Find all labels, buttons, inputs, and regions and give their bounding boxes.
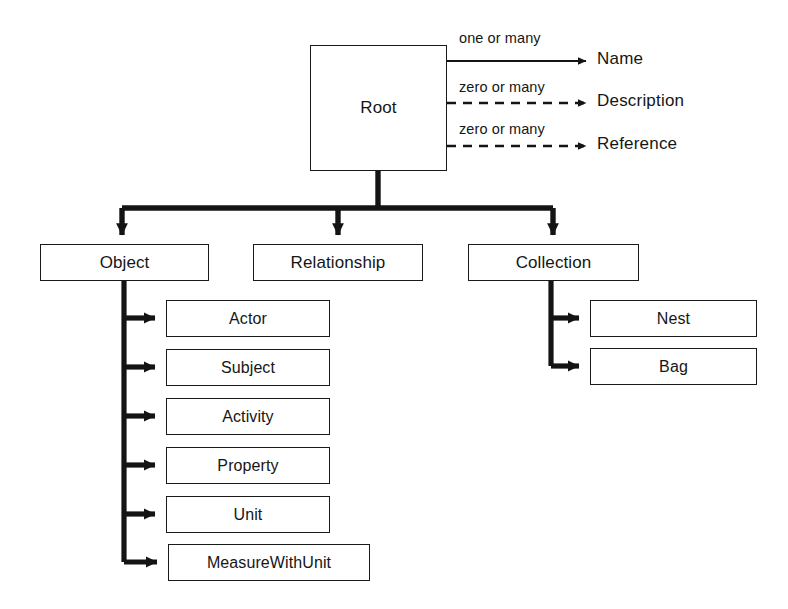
edge-object-children: [124, 280, 157, 562]
edge-label-reference-cardinality: zero or many: [459, 121, 545, 137]
node-collection-label: Collection: [516, 253, 592, 273]
edge-collection-children: [551, 280, 579, 366]
node-actor[interactable]: Actor: [166, 300, 330, 337]
node-property-label: Property: [217, 457, 278, 475]
node-actor-label: Actor: [229, 310, 267, 328]
node-root[interactable]: Root: [310, 45, 447, 171]
node-relationship[interactable]: Relationship: [253, 244, 423, 281]
node-object-label: Object: [100, 253, 150, 273]
node-property[interactable]: Property: [166, 447, 330, 484]
node-subject-label: Subject: [221, 359, 275, 377]
node-relationship-label: Relationship: [291, 253, 386, 273]
node-measurewithunit-label: MeasureWithUnit: [207, 554, 331, 572]
node-activity-label: Activity: [222, 408, 273, 426]
node-activity[interactable]: Activity: [166, 398, 330, 435]
node-subject[interactable]: Subject: [166, 349, 330, 386]
node-nest-label: Nest: [657, 310, 690, 328]
node-bag-label: Bag: [659, 358, 688, 376]
node-bag[interactable]: Bag: [590, 348, 757, 385]
node-measurewithunit[interactable]: MeasureWithUnit: [168, 544, 370, 581]
node-nest[interactable]: Nest: [590, 300, 757, 337]
attribute-description: Description: [597, 91, 684, 111]
attribute-name: Name: [597, 49, 643, 69]
edge-label-description-cardinality: zero or many: [459, 79, 545, 95]
edge-label-name-cardinality: one or many: [459, 30, 541, 46]
node-unit-label: Unit: [234, 506, 263, 524]
node-unit[interactable]: Unit: [166, 496, 330, 533]
diagram-canvas: Root one or many zero or many zero or ma…: [0, 0, 788, 609]
edge-root-stem: [122, 171, 553, 235]
node-object[interactable]: Object: [40, 244, 209, 281]
attribute-reference: Reference: [597, 134, 677, 154]
node-root-label: Root: [360, 98, 396, 118]
node-collection[interactable]: Collection: [468, 244, 639, 281]
